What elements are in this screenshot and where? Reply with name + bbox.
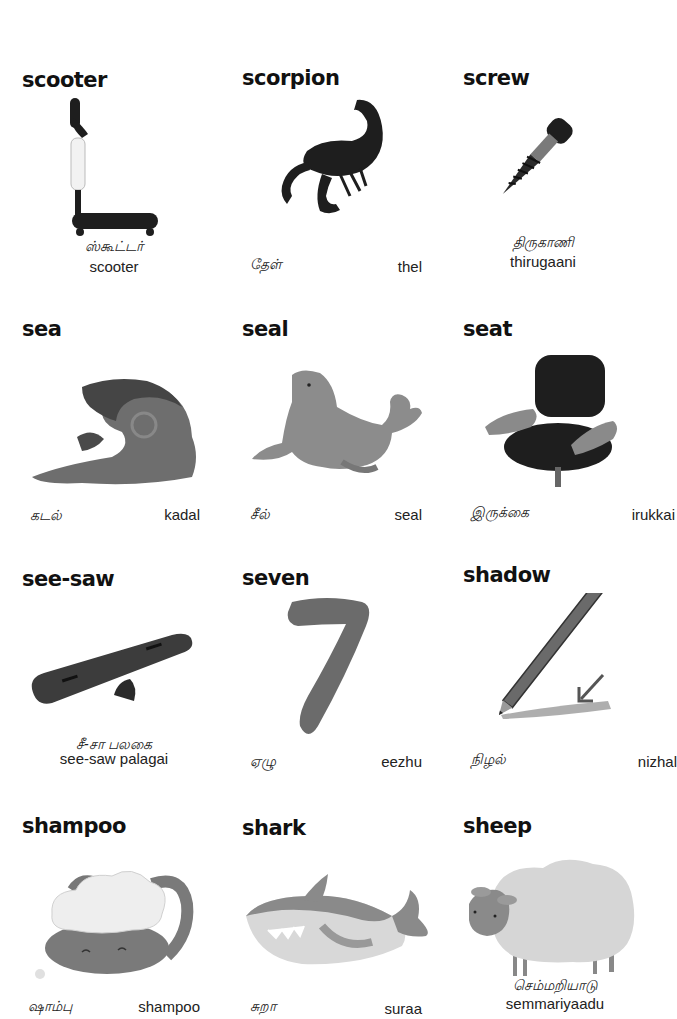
english-word: screw xyxy=(463,66,529,90)
english-word: seven xyxy=(242,566,309,590)
english-word: see-saw xyxy=(22,567,114,591)
card-scorpion: scorpion தேள் thel xyxy=(242,66,462,306)
tamil-word: செம்மறியாடு xyxy=(455,977,655,995)
transliteration: thirugaani xyxy=(443,253,643,270)
english-word: sheep xyxy=(463,814,531,838)
card-sea: sea கடல் kadal xyxy=(22,317,242,557)
see-saw-image xyxy=(22,597,242,747)
shark-image xyxy=(242,846,462,996)
transliteration: kadal xyxy=(164,506,200,523)
screw-image xyxy=(463,96,677,246)
number-seven-image xyxy=(242,596,462,746)
transliteration: suraa xyxy=(384,1000,422,1017)
english-word: sea xyxy=(22,317,61,341)
scorpion-image xyxy=(242,96,462,246)
tamil-word: சீல் xyxy=(250,506,270,524)
pencil-shadow-image xyxy=(463,593,677,743)
transliteration: shampoo xyxy=(138,998,200,1015)
tamil-word: சுறா xyxy=(250,998,276,1016)
english-word: shadow xyxy=(463,563,550,587)
tamil-word: திருகாணி xyxy=(443,234,643,252)
shampoo-cat-image xyxy=(22,844,242,994)
card-shark: shark சுறா suraa xyxy=(242,816,462,1019)
transliteration: scooter xyxy=(14,258,214,275)
english-word: seal xyxy=(242,317,288,341)
english-word: scooter xyxy=(22,68,107,92)
card-shadow: shadow நிழல் nizhal xyxy=(463,563,677,803)
tamil-word: ஸ்கூட்டர் xyxy=(14,238,214,256)
transliteration: semmariyaadu xyxy=(455,995,655,1012)
seal-image xyxy=(242,347,462,497)
tamil-word: கடல் xyxy=(30,507,62,525)
english-word: scorpion xyxy=(242,66,339,90)
transliteration: irukkai xyxy=(632,506,675,523)
sheep-image xyxy=(463,844,677,994)
transliteration: nizhal xyxy=(638,753,677,770)
transliteration: seal xyxy=(394,506,422,523)
transliteration: thel xyxy=(398,258,422,275)
tamil-word: ஷாம்பு xyxy=(28,998,72,1016)
english-word: shark xyxy=(242,816,305,840)
tamil-word: தேள் xyxy=(250,256,282,274)
english-word: shampoo xyxy=(22,814,126,838)
card-seat: seat இருக்கை irukkai xyxy=(463,317,677,557)
transliteration: eezhu xyxy=(381,753,422,770)
card-screw: screw திருகாணி thirugaani xyxy=(463,66,677,306)
card-sheep: sheep செம்மறியாடு semmariyaadu xyxy=(463,814,677,1019)
card-see-saw: see-saw சீ-சா பலகை see-saw palagai xyxy=(22,567,242,807)
card-scooter: scooter ஸ்கூட்டர் scooter xyxy=(22,68,242,308)
card-seal: seal சீல் seal xyxy=(242,317,462,557)
english-word: seat xyxy=(463,317,512,341)
tamil-word: ஏழு xyxy=(250,753,276,771)
tamil-word: இருக்கை xyxy=(471,504,529,522)
scooter-image xyxy=(22,98,242,248)
card-shampoo: shampoo ஷாம்பு shampoo xyxy=(22,814,242,1019)
seat-chair-image xyxy=(463,347,677,497)
transliteration: see-saw palagai xyxy=(14,750,214,767)
tamil-word: நிழல் xyxy=(471,751,506,769)
sea-wave-image xyxy=(22,347,242,497)
card-seven: seven ஏழு eezhu xyxy=(242,566,462,806)
